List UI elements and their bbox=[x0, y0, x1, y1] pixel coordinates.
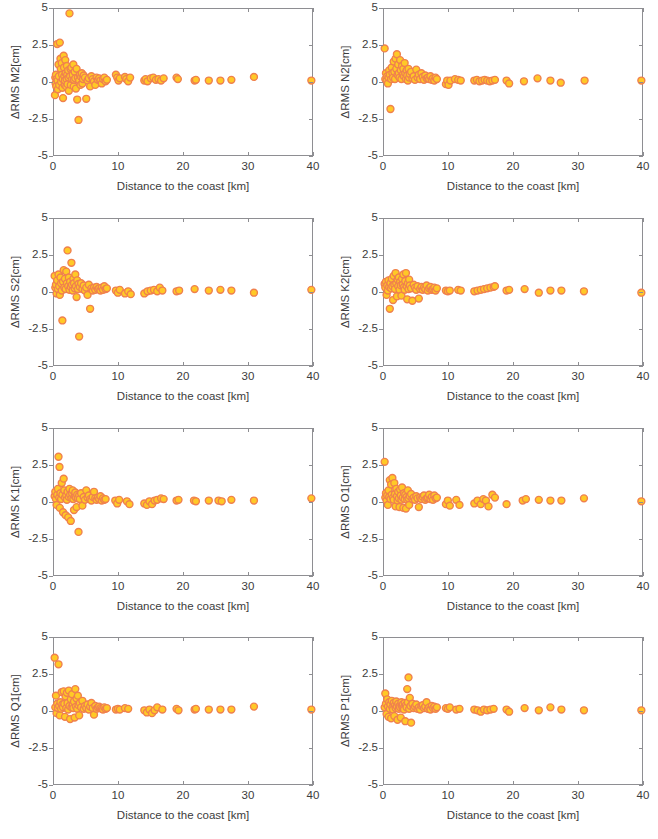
data-point bbox=[159, 287, 166, 294]
y-tick-mark-right bbox=[639, 255, 643, 256]
data-point bbox=[67, 518, 74, 525]
data-point bbox=[217, 77, 224, 84]
y-tick-mark bbox=[49, 82, 53, 83]
data-point bbox=[103, 705, 110, 712]
x-tick-mark bbox=[313, 572, 314, 576]
x-tick-mark bbox=[578, 781, 579, 785]
x-tick-mark bbox=[248, 781, 249, 785]
data-point bbox=[446, 287, 453, 294]
x-axis-label-k2: Distance to the coast [km] bbox=[383, 390, 643, 402]
y-tick-mark bbox=[379, 119, 383, 120]
y-tick-mark bbox=[49, 502, 53, 503]
x-tick-mark bbox=[578, 572, 579, 576]
x-tick-mark bbox=[513, 781, 514, 785]
data-point bbox=[558, 497, 565, 504]
x-tick-mark bbox=[53, 781, 54, 785]
x-tick-mark-top bbox=[578, 637, 579, 641]
y-tick-mark-right bbox=[639, 711, 643, 712]
x-tick-mark bbox=[643, 572, 644, 576]
x-tick-label: 10 bbox=[98, 160, 138, 172]
x-tick-mark bbox=[53, 572, 54, 576]
data-point bbox=[127, 291, 134, 298]
y-tick-mark-right bbox=[639, 45, 643, 46]
x-tick-mark bbox=[383, 362, 384, 366]
x-tick-mark bbox=[578, 152, 579, 156]
data-point bbox=[433, 494, 440, 501]
y-tick-mark bbox=[49, 292, 53, 293]
axes-box-k2 bbox=[383, 218, 643, 366]
x-tick-label: 40 bbox=[293, 160, 333, 172]
x-tick-mark-top bbox=[643, 218, 644, 222]
y-tick-mark-right bbox=[309, 366, 313, 367]
y-tick-mark bbox=[379, 366, 383, 367]
x-tick-label: 20 bbox=[493, 370, 533, 382]
y-tick-mark bbox=[379, 674, 383, 675]
data-point bbox=[75, 117, 82, 124]
x-tick-mark bbox=[248, 152, 249, 156]
data-point bbox=[192, 705, 199, 712]
x-axis-label-p1: Distance to the coast [km] bbox=[383, 809, 643, 821]
y-axis-label-wrap-m2: ΔRMS M2[cm] bbox=[8, 8, 22, 156]
x-tick-mark bbox=[118, 152, 119, 156]
y-tick-mark bbox=[379, 711, 383, 712]
data-point bbox=[581, 77, 588, 84]
x-tick-label: 20 bbox=[493, 580, 533, 592]
data-point bbox=[217, 286, 224, 293]
x-tick-mark-top bbox=[643, 8, 644, 12]
data-point bbox=[103, 76, 110, 83]
y-axis-label-n2: ΔRMS N2[cm] bbox=[339, 46, 351, 119]
y-tick-mark bbox=[379, 329, 383, 330]
x-tick-label: 0 bbox=[33, 370, 73, 382]
x-tick-label: 20 bbox=[163, 370, 203, 382]
y-tick-mark-right bbox=[639, 748, 643, 749]
x-tick-mark-top bbox=[183, 428, 184, 432]
data-point bbox=[415, 504, 422, 511]
data-point bbox=[159, 706, 166, 713]
x-axis-label-k1: Distance to the coast [km] bbox=[53, 600, 313, 612]
data-point bbox=[87, 305, 94, 312]
x-tick-mark-top bbox=[313, 218, 314, 222]
x-tick-mark bbox=[183, 572, 184, 576]
data-point bbox=[60, 475, 67, 482]
y-axis-label-m2: ΔRMS M2[cm] bbox=[9, 45, 21, 119]
y-tick-mark-right bbox=[639, 119, 643, 120]
x-tick-mark-top bbox=[513, 637, 514, 641]
data-point bbox=[103, 285, 110, 292]
data-point bbox=[506, 80, 513, 87]
data-point bbox=[175, 496, 182, 503]
x-tick-label: 0 bbox=[363, 580, 403, 592]
data-point bbox=[205, 287, 212, 294]
data-point bbox=[404, 686, 411, 693]
y-axis-label-wrap-s2: ΔRMS S2[cm] bbox=[8, 218, 22, 366]
data-point bbox=[125, 705, 132, 712]
data-point bbox=[228, 287, 235, 294]
data-point bbox=[250, 497, 257, 504]
y-tick-mark-right bbox=[639, 502, 643, 503]
axes-box-m2 bbox=[53, 8, 313, 156]
data-point bbox=[506, 286, 513, 293]
plot-panel-k1: -5-2.502.55010203040Distance to the coas… bbox=[0, 420, 329, 630]
y-axis-label-wrap-p1: ΔRMS P1[cm] bbox=[338, 637, 352, 785]
data-point bbox=[66, 10, 73, 17]
data-point bbox=[381, 45, 388, 52]
data-point bbox=[72, 686, 79, 693]
data-point bbox=[408, 719, 415, 726]
x-tick-mark bbox=[313, 152, 314, 156]
x-tick-mark-top bbox=[118, 637, 119, 641]
data-point bbox=[456, 705, 463, 712]
y-tick-mark-right bbox=[309, 82, 313, 83]
y-tick-mark-right bbox=[639, 292, 643, 293]
x-tick-mark-top bbox=[448, 218, 449, 222]
data-point bbox=[160, 75, 167, 82]
data-point bbox=[205, 706, 212, 713]
data-point bbox=[56, 39, 63, 46]
data-point bbox=[73, 294, 80, 301]
x-tick-label: 0 bbox=[363, 160, 403, 172]
y-tick-mark-right bbox=[309, 785, 313, 786]
data-point bbox=[76, 712, 83, 719]
data-point bbox=[503, 501, 510, 508]
x-tick-mark bbox=[183, 362, 184, 366]
data-point bbox=[308, 495, 315, 502]
x-tick-mark bbox=[448, 572, 449, 576]
y-tick-mark-right bbox=[639, 156, 643, 157]
